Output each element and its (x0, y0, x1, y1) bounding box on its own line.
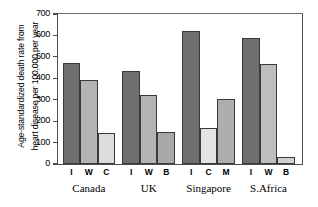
y-tick-label: 0 (45, 158, 50, 168)
bar-uk-i (122, 71, 140, 164)
x-group-label: S.Africa (228, 182, 309, 194)
bar-safrica-w (260, 64, 278, 164)
y-tick-label: 200 (36, 115, 50, 125)
bar-chart: Age-standardized death rate from heart d… (0, 0, 318, 207)
y-tick-label: 600 (36, 29, 50, 39)
bar-singapore-i (182, 31, 200, 164)
y-tick-label: 500 (36, 51, 50, 61)
y-tick-label: 300 (36, 94, 50, 104)
y-axis-title: Age-standardized death rate from heart d… (0, 0, 32, 172)
x-sublabel: I (242, 167, 260, 177)
y-tick-label: 400 (36, 72, 50, 82)
x-sublabel: W (80, 167, 98, 177)
x-sublabel: B (277, 167, 295, 177)
bar-safrica-b (277, 157, 295, 165)
x-sublabel: I (182, 167, 200, 177)
bar-uk-b (157, 132, 175, 164)
y-tick-label: 700 (36, 8, 50, 18)
bar-safrica-i (242, 38, 260, 164)
x-sublabel: I (63, 167, 81, 177)
bar-canada-i (63, 63, 81, 164)
x-sublabel: W (140, 167, 158, 177)
bar-canada-w (80, 80, 98, 164)
x-sublabel: B (157, 167, 175, 177)
bar-uk-w (140, 95, 158, 164)
x-sublabel: W (260, 167, 278, 177)
bar-canada-c (98, 133, 116, 164)
x-sublabel: I (122, 167, 140, 177)
x-sublabel: M (217, 167, 235, 177)
x-sublabel: C (98, 167, 116, 177)
bar-singapore-c (200, 128, 218, 164)
bars-layer (58, 14, 302, 164)
y-tick-label: 100 (36, 137, 50, 147)
x-sublabel: C (200, 167, 218, 177)
bar-singapore-m (217, 99, 235, 164)
